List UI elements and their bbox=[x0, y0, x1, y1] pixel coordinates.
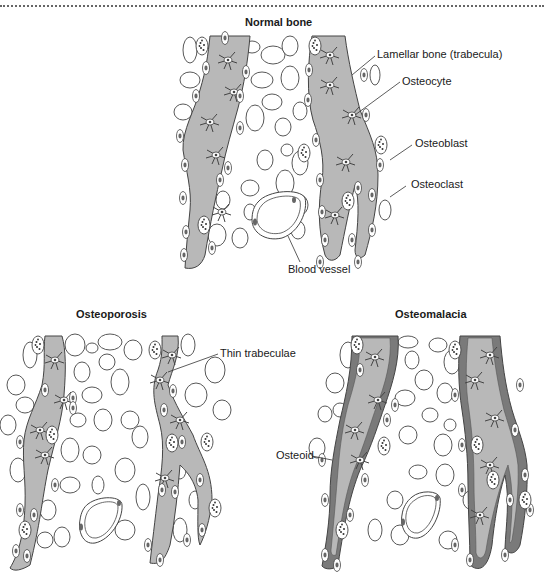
bone-histology-illustration bbox=[0, 0, 544, 579]
label-osteocyte: Osteocyte bbox=[402, 75, 452, 87]
blood-vessel-osteoporosis bbox=[79, 498, 122, 543]
blood-vessel-osteomalacia bbox=[401, 492, 440, 538]
title-osteomalacia: Osteomalacia bbox=[395, 308, 467, 320]
label-osteoblast: Osteoblast bbox=[415, 137, 468, 149]
label-osteoid: Osteoid bbox=[276, 449, 314, 461]
label-thin-trabeculae: Thin trabeculae bbox=[220, 347, 296, 359]
trabecula-right bbox=[308, 36, 378, 260]
normal-bone-panel bbox=[174, 32, 412, 269]
label-osteoclast: Osteoclast bbox=[411, 178, 463, 190]
title-osteoporosis: Osteoporosis bbox=[76, 308, 147, 320]
osteomalacia-panel bbox=[309, 336, 534, 572]
label-lamellar-bone: Lamellar bone (trabecula) bbox=[377, 48, 502, 60]
osteoporosis-panel bbox=[0, 334, 231, 570]
trabecula-with-osteoid-right bbox=[459, 336, 528, 568]
label-blood-vessel: Blood vessel bbox=[288, 263, 350, 275]
title-normal-bone: Normal bone bbox=[245, 16, 312, 28]
